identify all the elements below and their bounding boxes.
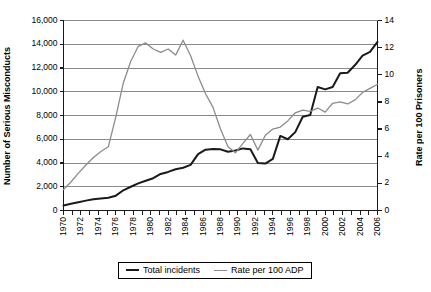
x-axis-tick-label: 1992 <box>251 217 260 236</box>
legend-swatch-rate-per-100-adp <box>214 270 227 271</box>
x-axis-tick-label: 1980 <box>146 217 155 236</box>
chart-container: Number of Serious Misconducts Rate per 1… <box>0 0 431 292</box>
y-axis-right-tick-label: 2 <box>385 178 407 187</box>
y-axis-right-tick-label: 4 <box>385 151 407 160</box>
x-axis-tick-label: 1982 <box>164 217 173 236</box>
y-axis-left-tick-label: 16,000 <box>16 16 58 25</box>
x-axis-tick-label: 1996 <box>286 217 295 236</box>
y-axis-right-title: Rate per 100 Prisoners <box>414 22 426 212</box>
x-axis-tick-label: 2004 <box>356 217 365 236</box>
legend-label-total-incidents: Total incidents <box>143 265 200 275</box>
x-axis-tick-label: 1984 <box>181 217 190 236</box>
x-axis-tick-label: 1978 <box>129 217 138 236</box>
x-axis-tick-label: 1988 <box>216 217 225 236</box>
y-axis-left-title: Number of Serious Misconducts <box>2 20 14 212</box>
x-axis-tick-label: 1972 <box>76 217 85 236</box>
x-axis-tick-label: 1986 <box>199 217 208 236</box>
legend-item-rate-per-100-adp: Rate per 100 ADP <box>214 265 304 275</box>
chart-legend: Total incidents Rate per 100 ADP <box>118 262 312 279</box>
x-axis-tick-label: 1990 <box>233 217 242 236</box>
x-axis-tick-label: 2000 <box>321 217 330 236</box>
y-axis-right-tick-label: 0 <box>385 206 407 215</box>
series-line-rate-per-100-adp <box>64 40 378 189</box>
y-axis-left-tick-label: 4,000 <box>16 158 58 167</box>
legend-swatch-total-incidents <box>126 269 139 271</box>
y-axis-left-tick-label: 14,000 <box>16 39 58 48</box>
y-axis-right-tick-label: 6 <box>385 124 407 133</box>
y-axis-left-tick-label: 12,000 <box>16 63 58 72</box>
y-axis-left-tick-label: 2,000 <box>16 182 58 191</box>
x-axis-tick-label: 1994 <box>268 217 277 236</box>
x-axis-tick-label: 1998 <box>303 217 312 236</box>
x-axis-tick-label: 2002 <box>338 217 347 236</box>
y-axis-right-tick-label: 14 <box>385 16 407 25</box>
y-axis-left-tick-label: 6,000 <box>16 134 58 143</box>
y-axis-left-tick-label: 10,000 <box>16 87 58 96</box>
legend-label-rate-per-100-adp: Rate per 100 ADP <box>231 265 304 275</box>
y-axis-right-tick-label: 12 <box>385 43 407 52</box>
x-axis-tick-label: 1974 <box>94 217 103 236</box>
plot-area <box>0 0 431 292</box>
y-axis-right-tick-label: 10 <box>385 70 407 79</box>
y-axis-right-tick-label: 8 <box>385 97 407 106</box>
x-axis-tick-label: 1970 <box>59 217 68 236</box>
x-axis-tick-label: 1976 <box>111 217 120 236</box>
y-axis-left-tick-label: 8,000 <box>16 111 58 120</box>
x-axis-tick-label: 2006 <box>373 217 382 236</box>
series-line-total-incidents <box>64 42 378 206</box>
legend-item-total-incidents: Total incidents <box>126 265 200 275</box>
y-axis-left-tick-label: 0 <box>16 206 58 215</box>
